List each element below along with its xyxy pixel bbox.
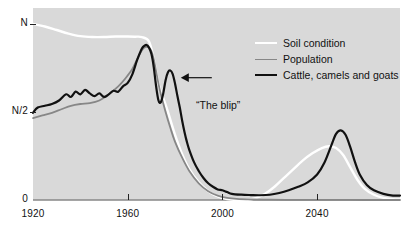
legend-label: Cattle, camels and goats [283, 69, 399, 81]
annotation-arrow-head [181, 73, 189, 82]
annotation-the-blip: “The blip” [196, 99, 240, 111]
x-tick-mark [317, 194, 318, 200]
x-tick-mark [128, 194, 129, 200]
legend-item: Soil condition [255, 36, 399, 50]
x-tick-label: 1960 [104, 208, 152, 219]
legend-swatch [255, 42, 277, 44]
x-tick-mark [222, 194, 223, 200]
y-tick-mark [30, 24, 36, 25]
legend-label: Soil condition [283, 37, 345, 49]
y-tick-label: N/2 [0, 105, 28, 116]
legend-item: Population [255, 52, 399, 66]
legend-swatch [255, 74, 277, 76]
x-tick-label: 2040 [293, 208, 341, 219]
chart-figure: NN/20 1920196020002040 Soil conditionPop… [0, 0, 413, 232]
x-tick-label: 2000 [198, 208, 246, 219]
x-tick-label: 1920 [9, 208, 57, 219]
y-tick-label: N [0, 17, 28, 28]
chart-svg [0, 0, 413, 232]
y-tick-label: 0 [0, 193, 28, 204]
annotation-label: “The blip” [196, 99, 240, 111]
chart-legend: Soil conditionPopulationCattle, camels a… [255, 36, 399, 84]
legend-item: Cattle, camels and goats [255, 68, 399, 82]
legend-label: Population [283, 53, 333, 65]
y-tick-mark [30, 112, 36, 113]
legend-swatch [255, 59, 277, 60]
